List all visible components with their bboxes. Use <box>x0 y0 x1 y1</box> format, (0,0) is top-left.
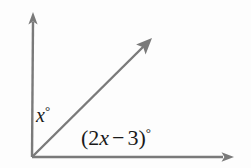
upper-angle-degree-symbol: ° <box>45 103 50 118</box>
angle-diagram-figure: x° (2x−3)° <box>0 0 251 168</box>
vertical-ray-line <box>32 22 33 157</box>
upper-angle-variable: x <box>36 104 45 126</box>
lower-angle-constant: 3 <box>128 125 139 150</box>
upper-angle-label: x° <box>36 104 50 125</box>
lower-angle-close-paren: ) <box>139 125 146 150</box>
lower-angle-variable: x <box>99 125 109 150</box>
lower-angle-degree-symbol: ° <box>146 125 151 140</box>
lower-angle-operator: − <box>109 125 127 150</box>
lower-angle-label: (2x−3)° <box>81 126 151 149</box>
horizontal-ray-arrowhead-icon <box>222 152 235 162</box>
lower-angle-coefficient: 2 <box>88 125 99 150</box>
